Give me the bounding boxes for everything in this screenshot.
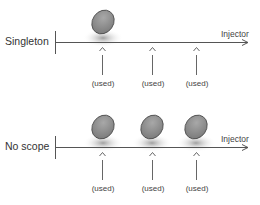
usage-label: (used) — [186, 79, 209, 88]
usage-label: (used) — [92, 79, 115, 88]
usage-arrow — [150, 153, 156, 181]
usage-label: (used) — [186, 184, 209, 193]
scope-comparison-diagram: Singleton Injector (used) (used) (used) … — [0, 0, 260, 205]
row-label-no-scope: No scope — [5, 140, 49, 152]
axis-label-injector: Injector — [221, 134, 249, 144]
singleton-row — [55, 6, 248, 75]
row-label-singleton: Singleton — [5, 35, 49, 47]
usage-arrow — [100, 153, 106, 181]
axis-label-injector: Injector — [221, 29, 249, 39]
usage-label: (used) — [142, 184, 165, 193]
no-scope-row — [55, 111, 248, 180]
usage-arrow — [150, 48, 156, 76]
usage-arrow — [194, 153, 200, 181]
usage-label: (used) — [142, 79, 165, 88]
usage-label: (used) — [92, 184, 115, 193]
usage-arrow — [194, 48, 200, 76]
usage-arrow — [100, 48, 106, 76]
